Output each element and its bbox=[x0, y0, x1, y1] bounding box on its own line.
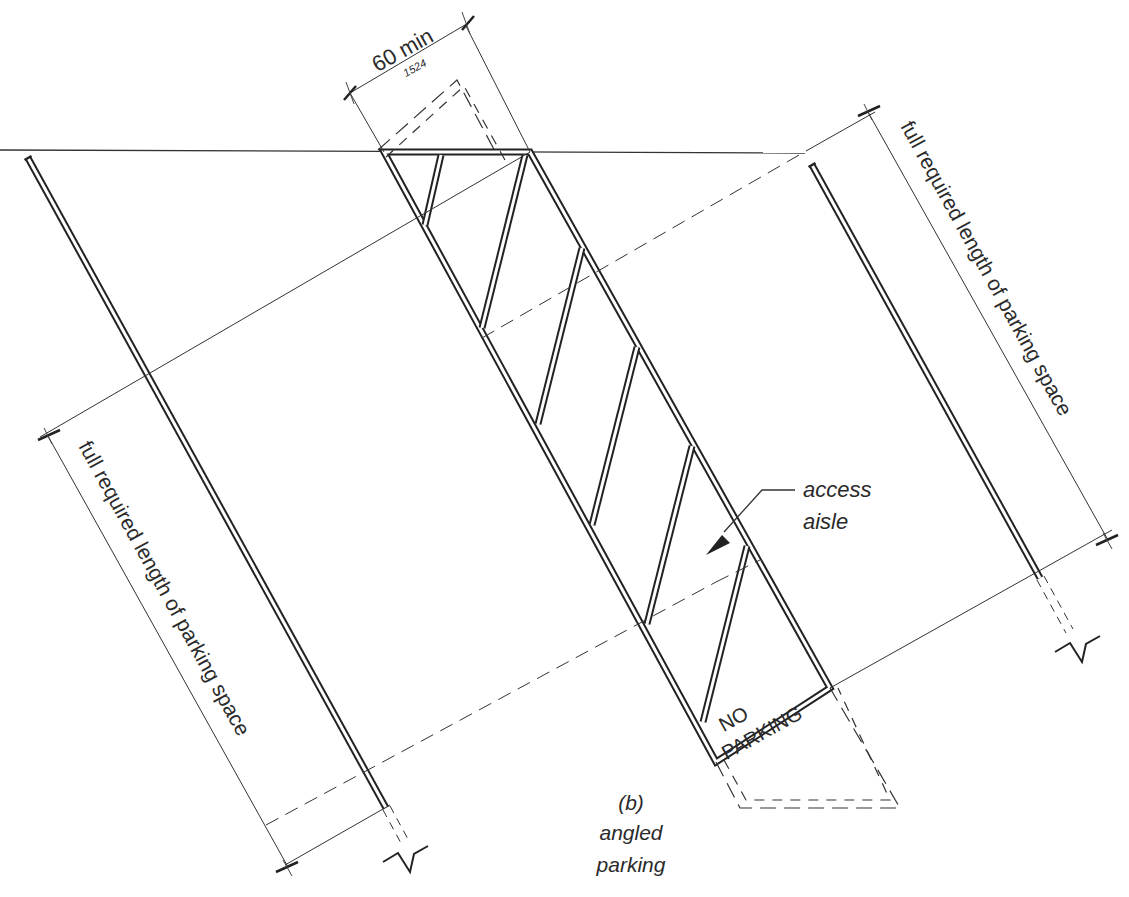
break-symbol-right bbox=[1055, 636, 1100, 662]
no-parking-marking: NO PARKING bbox=[705, 679, 806, 764]
left-length-label: full required length of parking space bbox=[74, 437, 254, 740]
figure-caption: (b) angled parking bbox=[596, 791, 666, 876]
angled-parking-diagram: NO PARKING full required length of parki… bbox=[0, 0, 1129, 897]
aisle-width-dimension: 60 min 1524 bbox=[344, 12, 530, 152]
left-length-dimension: full required length of parking space bbox=[38, 428, 298, 876]
caption-line2: parking bbox=[596, 853, 666, 876]
left-parking-stripe bbox=[25, 156, 410, 845]
space-end-dashed-upper bbox=[482, 151, 806, 338]
extension-line-right-bottom bbox=[830, 530, 1112, 688]
extension-line-right-top bbox=[806, 112, 875, 151]
caption-label: (b) bbox=[618, 791, 644, 814]
access-aisle-line2: aisle bbox=[803, 509, 848, 534]
right-parking-stripe bbox=[809, 163, 1074, 633]
extension-line-left-bottom bbox=[285, 805, 390, 865]
extension-line-left-top bbox=[40, 152, 530, 437]
access-aisle: NO PARKING bbox=[384, 152, 830, 764]
access-aisle-line1: access bbox=[803, 477, 871, 502]
aisle-hatching bbox=[425, 155, 747, 722]
break-symbol-left bbox=[383, 846, 428, 872]
caption-line1: angled bbox=[599, 821, 663, 844]
callout-arrow-icon bbox=[706, 535, 730, 555]
